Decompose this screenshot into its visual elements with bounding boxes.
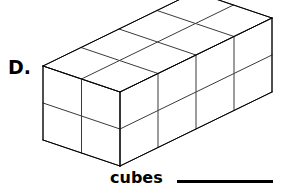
item-letter-label: D.: [8, 58, 31, 77]
cube-stack-figure: [0, 0, 288, 194]
cubes-unit-label: cubes: [110, 170, 163, 186]
answer-prompt-row: cubes: [110, 170, 273, 186]
worksheet-item-panel: D. cubes: [0, 0, 288, 194]
answer-blank-line[interactable]: [177, 180, 273, 183]
